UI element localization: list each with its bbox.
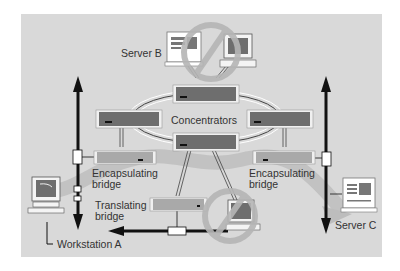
encap-left-label-2: bridge bbox=[92, 178, 121, 190]
encap-right-label-2: bridge bbox=[249, 178, 278, 190]
translating-label-2: bridge bbox=[95, 210, 124, 222]
concentrators-label: Concentrators bbox=[171, 114, 237, 126]
encapsulating-bridge-left bbox=[94, 151, 156, 164]
network-diagram: Server B Concentrators Encapsulating bri… bbox=[0, 0, 400, 271]
concentrator-top bbox=[173, 85, 239, 103]
concentrator-bottom bbox=[173, 133, 239, 151]
concentrator-right bbox=[247, 110, 313, 128]
concentrator-left bbox=[96, 110, 162, 128]
workstation-a-label: Workstation A bbox=[57, 238, 122, 250]
translating-bridge bbox=[150, 198, 207, 211]
encapsulating-bridge-right bbox=[253, 151, 315, 164]
server-c-icon bbox=[341, 178, 377, 212]
server-b-label: Server B bbox=[121, 47, 162, 59]
server-c-label: Server C bbox=[335, 219, 377, 231]
